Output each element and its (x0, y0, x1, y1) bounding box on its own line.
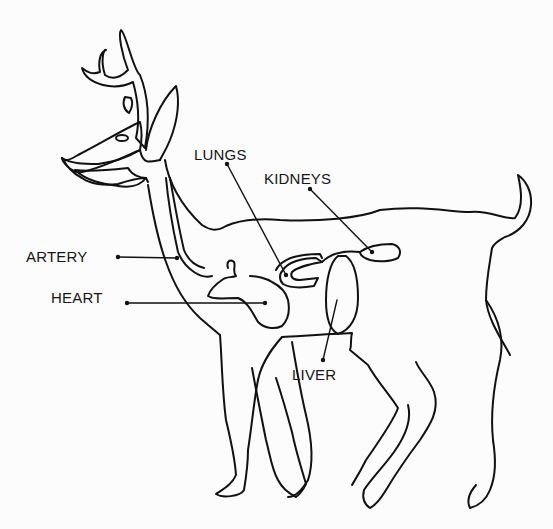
front-leg-outline (252, 368, 306, 497)
label-artery: ARTERY (26, 249, 88, 264)
deer-anatomy-diagram: LUNGS KIDNEYS ARTERY HEART LIVER (0, 0, 553, 529)
chest-outline (148, 185, 258, 496)
label-liver: LIVER (292, 367, 336, 382)
antler-nub (124, 97, 132, 113)
label-heart: HEART (51, 290, 103, 305)
kidneys-dot (308, 187, 312, 191)
heart-dot (125, 301, 129, 305)
label-lungs: LUNGS (194, 147, 247, 162)
belly-outline (258, 333, 398, 485)
hind-leg-outline (363, 362, 436, 508)
jaw-outline (75, 168, 146, 187)
label-kidneys: KIDNEYS (264, 171, 331, 186)
skull-outline (62, 122, 142, 164)
heart-target-dot (263, 301, 267, 305)
liver-organ (326, 256, 358, 334)
artery-dot (116, 255, 120, 259)
lungs-organ (280, 258, 322, 287)
antler-outline (82, 30, 148, 148)
ear-outline (146, 86, 178, 160)
artery-target-dot (175, 256, 179, 260)
lungs-target-dot (284, 273, 288, 277)
liver-dot (321, 358, 325, 362)
liver-leader-line (323, 300, 337, 360)
eye-socket (116, 135, 128, 141)
artery-leader-line (118, 257, 177, 258)
kidneys-target-dot (370, 250, 374, 254)
